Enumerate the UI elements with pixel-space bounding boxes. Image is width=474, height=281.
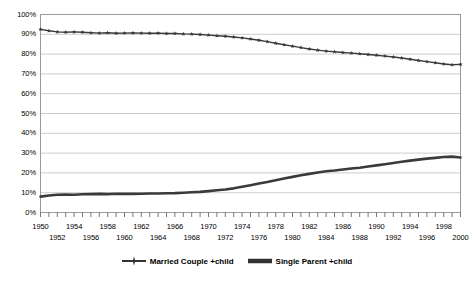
series-marker xyxy=(358,52,362,56)
x-axis-tick-label: 1976 xyxy=(244,233,274,242)
series-marker xyxy=(72,30,76,34)
x-axis-tick-label: 1952 xyxy=(42,233,72,242)
x-axis-tick-label: 1966 xyxy=(160,222,190,231)
x-axis-tick-label: 1992 xyxy=(378,233,408,242)
series-marker xyxy=(257,38,261,42)
x-axis-tick-label: 1996 xyxy=(412,233,442,242)
series-marker xyxy=(374,53,378,57)
series-marker xyxy=(181,32,185,36)
x-axis-tick-label: 1974 xyxy=(227,222,257,231)
series-marker xyxy=(265,39,269,43)
x-axis-tick-label: 1980 xyxy=(278,233,308,242)
series-marker xyxy=(64,30,68,34)
series-marker xyxy=(408,57,412,61)
x-axis-tick-label: 1958 xyxy=(93,222,123,231)
series-marker xyxy=(55,30,59,34)
x-axis-tick-label: 1978 xyxy=(261,222,291,231)
legend-marker-star-line xyxy=(122,256,146,266)
series-marker xyxy=(299,45,303,49)
series-marker xyxy=(232,35,236,39)
series-marker xyxy=(332,50,336,54)
x-axis-tick-label: 1964 xyxy=(143,233,173,242)
x-axis-tick-label: 1962 xyxy=(126,222,156,231)
series-marker xyxy=(433,61,437,65)
x-axis-tick-label: 1970 xyxy=(194,222,224,231)
series-marker xyxy=(416,58,420,62)
x-axis-tick-label: 1998 xyxy=(429,222,459,231)
legend-marker-thick-line xyxy=(248,256,272,266)
x-axis-tick-label: 2000 xyxy=(446,233,474,242)
chart-container: 0%10%20%30%40%50%60%70%80%90%100% 195019… xyxy=(0,0,474,281)
legend-label-single-parent: Single Parent +child xyxy=(276,257,353,266)
series-marker xyxy=(190,32,194,36)
series-marker xyxy=(450,63,454,67)
series-marker xyxy=(400,56,404,60)
legend-entry-single-parent[interactable]: Single Parent +child xyxy=(248,256,353,266)
legend-entry-married-couple[interactable]: Married Couple +child xyxy=(122,256,234,266)
chart-legend: Married Couple +child Single Parent +chi… xyxy=(0,256,474,266)
x-axis-tick-label: 1982 xyxy=(294,222,324,231)
series-marker xyxy=(198,32,202,36)
x-axis-tick-label: 1950 xyxy=(26,222,56,231)
x-axis-tick-label: 1960 xyxy=(110,233,140,242)
x-axis-tick-label: 1990 xyxy=(362,222,392,231)
series-marker xyxy=(290,44,294,48)
series-marker xyxy=(80,30,84,34)
series-marker xyxy=(324,49,328,53)
x-axis-tick-label: 1972 xyxy=(210,233,240,242)
series-marker xyxy=(240,36,244,40)
series-marker xyxy=(282,43,286,47)
x-axis-tick-label: 1984 xyxy=(311,233,341,242)
x-axis-tick-label: 1994 xyxy=(395,222,425,231)
series-marker xyxy=(274,41,278,45)
series-marker xyxy=(316,48,320,52)
series-marker xyxy=(391,55,395,59)
series-marker xyxy=(366,52,370,56)
series-marker xyxy=(425,59,429,63)
x-axis-tick-label: 1968 xyxy=(177,233,207,242)
legend-label-married-couple: Married Couple +child xyxy=(150,257,234,266)
series-line-single-parent xyxy=(41,157,461,197)
x-axis-tick-label: 1988 xyxy=(345,233,375,242)
x-axis-tick-label: 1986 xyxy=(328,222,358,231)
series-marker xyxy=(206,33,210,37)
x-axis-tick-label: 1956 xyxy=(76,233,106,242)
series-marker xyxy=(248,37,252,41)
series-marker xyxy=(442,62,446,66)
series-marker xyxy=(47,29,51,33)
series-marker xyxy=(307,47,311,51)
x-axis-tick-label: 1954 xyxy=(59,222,89,231)
